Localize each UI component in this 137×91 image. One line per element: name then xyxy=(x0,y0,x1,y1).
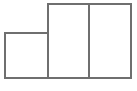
rect-middle-rectangle xyxy=(48,4,89,78)
rect-right-rectangle xyxy=(89,4,131,78)
rect-left-square xyxy=(5,33,48,78)
figure-canvas xyxy=(0,0,137,91)
rectangles-diagram-svg xyxy=(0,0,137,91)
